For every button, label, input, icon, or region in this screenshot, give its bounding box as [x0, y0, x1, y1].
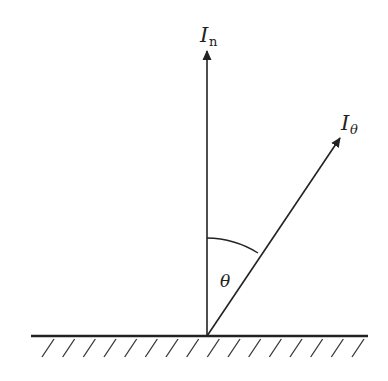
- angle-arc: [207, 238, 258, 253]
- surface-hatching: [42, 339, 364, 357]
- angled-vector-arrow: [207, 138, 340, 336]
- angle-label: θ: [220, 271, 230, 291]
- hatch-mark: [187, 339, 199, 357]
- hatch-mark: [228, 339, 240, 357]
- hatch-mark: [207, 339, 219, 357]
- hatch-mark: [352, 339, 364, 357]
- hatch-mark: [145, 339, 157, 357]
- hatch-mark: [166, 339, 178, 357]
- normal-vector-subscript: n: [209, 34, 218, 49]
- angled-vector-subscript: θ: [350, 122, 358, 137]
- hatch-mark: [290, 339, 302, 357]
- diagram-canvas: I n I θ θ: [0, 0, 388, 381]
- hatch-mark: [63, 339, 75, 357]
- hatch-mark: [104, 339, 116, 357]
- hatch-mark: [83, 339, 95, 357]
- hatch-mark: [269, 339, 281, 357]
- hatch-mark: [249, 339, 261, 357]
- hatch-mark: [331, 339, 343, 357]
- hatch-mark: [125, 339, 137, 357]
- angled-vector-label: I: [340, 111, 350, 135]
- hatch-mark: [42, 339, 54, 357]
- hatch-mark: [311, 339, 323, 357]
- diagram-svg: I n I θ θ: [0, 0, 388, 381]
- normal-vector-label: I: [199, 23, 209, 47]
